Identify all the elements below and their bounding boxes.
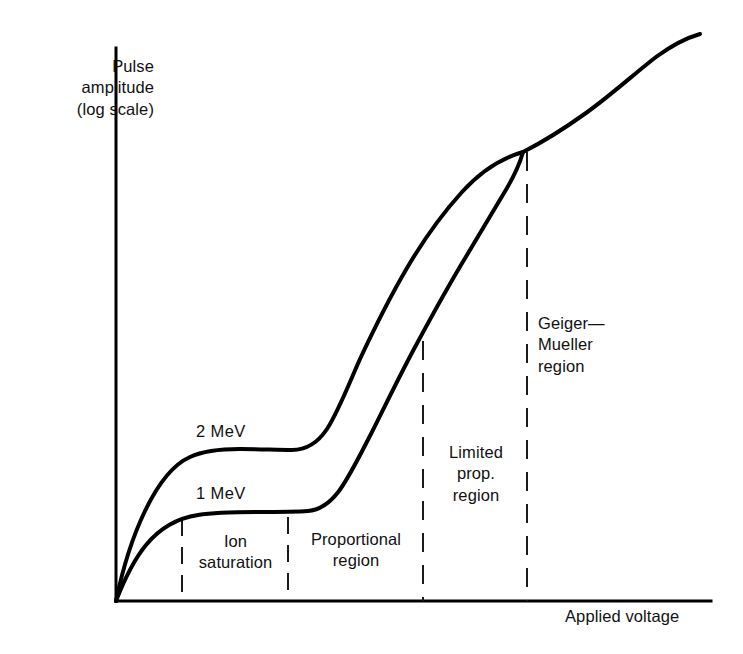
detector-response-figure: Pulse amplitude (log scale) Applied volt…	[0, 0, 743, 654]
region-label-limited-proportional: Limited prop. region	[428, 442, 524, 506]
curve-label-1mev: 1 MeV	[196, 483, 246, 504]
region-label-geiger-mueller: Geiger— Mueller region	[538, 313, 658, 377]
curve-merged-geiger-mueller	[523, 34, 700, 152]
y-axis-label: Pulse amplitude (log scale)	[8, 56, 154, 120]
x-axis-label: Applied voltage	[565, 606, 679, 627]
curve-label-2mev: 2 MeV	[196, 421, 246, 442]
region-label-ion-saturation: Ion saturation	[185, 531, 286, 574]
region-label-proportional: Proportional region	[291, 529, 421, 572]
